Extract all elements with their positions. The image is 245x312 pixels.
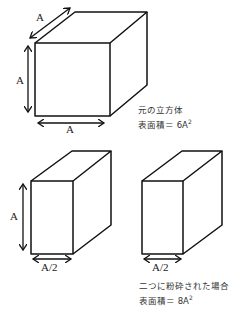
cube-width-label: A — [66, 124, 74, 135]
right-block-width-label: A/2 — [152, 262, 169, 273]
left-block-height-label: A — [10, 211, 18, 222]
right-block-top-face — [142, 151, 222, 181]
left-block-front-face — [31, 181, 73, 254]
original-cube-title: 元の立方体 — [138, 104, 192, 116]
surface-area-exponent: 2 — [189, 294, 193, 301]
split-caption: 二つに粉砕された場合 表面積＝ 8A2 — [139, 280, 229, 307]
cube-depth-label: A — [36, 12, 44, 23]
split-title: 二つに粉砕された場合 — [139, 280, 229, 292]
surface-area-text: 表面積＝ 8A — [139, 296, 189, 306]
surface-area-exponent: 2 — [188, 118, 192, 125]
right-half-block — [142, 151, 222, 254]
split-surface-area: 表面積＝ 8A2 — [139, 292, 229, 307]
left-block-width-label: A/2 — [41, 262, 58, 273]
cube-front-face — [35, 43, 110, 116]
original-cube-surface-area: 表面積＝ 6A2 — [138, 116, 192, 131]
original-cube-caption: 元の立方体 表面積＝ 6A2 — [138, 104, 192, 131]
cube-top-face — [35, 12, 147, 43]
cube-height-label: A — [16, 75, 24, 86]
surface-area-text: 表面積＝ 6A — [138, 120, 188, 130]
left-block-top-face — [31, 151, 111, 181]
right-block-front-face — [142, 181, 183, 254]
diagram-canvas — [0, 0, 245, 312]
original-cube — [35, 12, 147, 116]
left-half-block — [31, 151, 111, 254]
